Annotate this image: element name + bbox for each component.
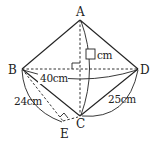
right-angle-mark-e (60, 113, 68, 118)
answer-box[interactable] (86, 49, 95, 59)
geometry-diagram: A B C D E cm 40cm 24cm 25cm (0, 0, 156, 148)
point-label-c: C (76, 117, 85, 131)
dimension-label-be: 24cm (14, 95, 42, 107)
dimension-label-bd: 40cm (40, 72, 68, 84)
segment-ab (22, 20, 80, 69)
point-label-a: A (75, 5, 85, 19)
point-label-b: B (8, 63, 17, 77)
right-angle-mark-center (72, 63, 80, 69)
point-label-d: D (140, 63, 150, 77)
segment-ad (80, 20, 138, 69)
point-label-e: E (60, 127, 69, 141)
dimension-label-ac: cm (97, 49, 113, 61)
dimension-label-cd: 25cm (108, 93, 136, 105)
arc-ac (81, 21, 90, 115)
